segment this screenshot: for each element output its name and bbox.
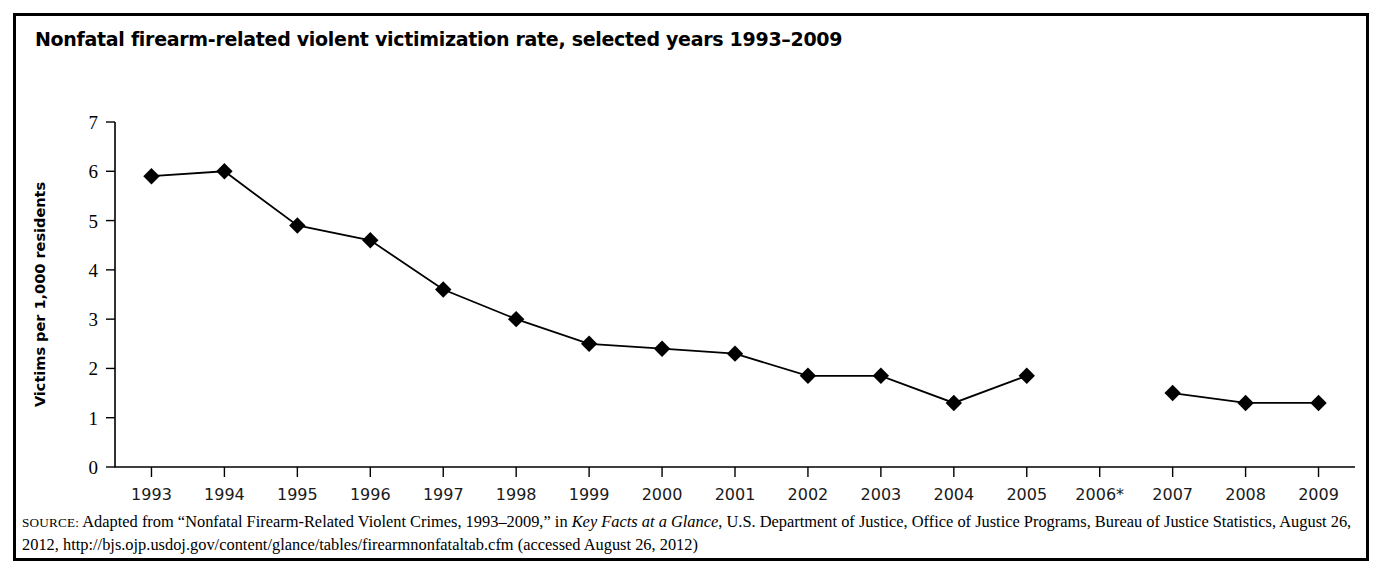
y-axis-tick-label: 3 — [89, 309, 99, 330]
y-axis-title-label: Victims per 1,000 residents — [32, 182, 48, 407]
y-axis-title: Victims per 1,000 residents — [32, 182, 48, 407]
source-label: SOURCE: — [22, 515, 79, 530]
x-axis-ticks: 1993199419951996199719981999200020012002… — [131, 467, 1339, 504]
data-point-marker — [362, 232, 378, 248]
data-point-marker — [873, 368, 889, 384]
data-point-marker — [1237, 395, 1253, 411]
x-axis-tick-label: 2009 — [1298, 485, 1339, 504]
y-axis-tick-label: 7 — [89, 112, 99, 133]
x-axis-tick-label: 1994 — [204, 485, 245, 504]
line-chart: 01234567 1993199419951996199719981999200… — [0, 0, 1385, 577]
x-axis-tick-label: 2003 — [861, 485, 902, 504]
data-point-marker — [1019, 368, 1035, 384]
y-axis-tick-label: 6 — [89, 161, 99, 182]
data-point-marker — [654, 341, 670, 357]
data-point-marker — [435, 281, 451, 297]
y-axis-tick-label: 0 — [89, 457, 99, 478]
data-point-marker — [143, 168, 159, 184]
y-axis-tick-label: 5 — [89, 211, 99, 232]
x-axis-tick-label: 2008 — [1225, 485, 1266, 504]
x-axis-tick-label: 2004 — [933, 485, 974, 504]
x-axis-tick-label: 2002 — [788, 485, 829, 504]
x-axis-tick-label: 1993 — [131, 485, 172, 504]
x-axis-tick-label: 2000 — [642, 485, 683, 504]
x-axis-tick-label: 1997 — [423, 485, 464, 504]
x-axis-tick-label: 1998 — [496, 485, 537, 504]
x-axis-tick-label: 2006* — [1075, 485, 1124, 504]
source-publication-title: Key Facts at a Glance — [572, 512, 719, 531]
source-note: SOURCE: Adapted from “Nonfatal Firearm-R… — [22, 511, 1362, 556]
chart-axes — [115, 122, 1355, 467]
y-axis-tick-label: 2 — [89, 358, 99, 379]
data-point-marker — [727, 345, 743, 361]
y-axis-ticks: 01234567 — [89, 112, 116, 478]
x-axis-tick-label: 2005 — [1006, 485, 1047, 504]
data-point-marker — [289, 217, 305, 233]
x-axis-tick-label: 2007 — [1152, 485, 1193, 504]
data-point-marker — [1310, 395, 1326, 411]
source-text-before: Adapted from “Nonfatal Firearm-Related V… — [79, 512, 572, 531]
data-markers — [143, 163, 1326, 411]
data-series — [151, 171, 1318, 403]
data-point-marker — [800, 368, 816, 384]
y-axis-tick-label: 1 — [89, 408, 99, 429]
x-axis-tick-label: 1996 — [350, 485, 391, 504]
y-axis-tick-label: 4 — [89, 260, 99, 281]
data-point-marker — [581, 336, 597, 352]
x-axis-tick-label: 2001 — [715, 485, 756, 504]
data-point-marker — [508, 311, 524, 327]
data-point-marker — [1164, 385, 1180, 401]
data-point-marker — [216, 163, 232, 179]
x-axis-tick-label: 1999 — [569, 485, 610, 504]
figure-container: Nonfatal firearm-related violent victimi… — [0, 0, 1385, 577]
x-axis-tick-label: 1995 — [277, 485, 318, 504]
chart-plot-area: 01234567 1993199419951996199719981999200… — [0, 0, 1385, 577]
data-point-marker — [946, 395, 962, 411]
